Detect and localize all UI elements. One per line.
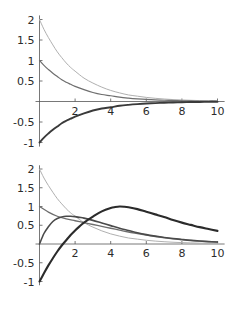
curves-top	[40, 20, 218, 143]
y-tick-label-1: 1	[28, 55, 35, 68]
x-tick-label-10: 10	[211, 105, 225, 118]
y-tick-label-1: 1	[28, 201, 35, 214]
x-tick-label-4: 4	[107, 247, 114, 260]
x-tick-label-6: 6	[143, 105, 150, 118]
y-tick-label-2: 2	[28, 14, 35, 27]
y-tick-label--1: -1	[24, 137, 35, 150]
y-tick-label-2: 2	[28, 163, 35, 176]
y-tick-labels-bottom: -1-0.50.511.52	[13, 163, 34, 289]
y-tick-label-0.5: 0.5	[17, 219, 35, 232]
x-tick-labels-bottom: 246810	[72, 247, 225, 260]
y-tick-label-0.5: 0.5	[17, 75, 35, 88]
x-tick-label-8: 8	[178, 105, 185, 118]
y-ticks-bottom	[40, 169, 43, 282]
plot-panel-bottom: 246810 -1-0.50.511.52	[0, 155, 240, 310]
y-tick-label--1: -1	[24, 276, 35, 289]
x-tick-label-2: 2	[72, 247, 79, 260]
curve-upper-light-decay	[40, 20, 218, 101]
plot-panel-top: 246810 -1-0.50.511.52	[0, 0, 240, 155]
x-tick-label-4: 4	[107, 105, 114, 118]
x-tick-label-2: 2	[72, 105, 79, 118]
y-tick-label--0.5: -0.5	[13, 116, 34, 129]
x-tick-label-8: 8	[178, 247, 185, 260]
plot-svg-top: 246810 -1-0.50.511.52	[0, 0, 240, 155]
plot-svg-bottom: 246810 -1-0.50.511.52	[0, 155, 240, 310]
y-tick-label--0.5: -0.5	[13, 257, 34, 270]
y-tick-labels-top: -1-0.50.511.52	[13, 14, 34, 150]
x-tick-label-6: 6	[143, 247, 150, 260]
y-tick-label-1.5: 1.5	[17, 182, 35, 195]
curves-bottom	[40, 169, 218, 282]
curve-lower-negative-decay	[40, 102, 218, 143]
x-tick-label-10: 10	[211, 247, 225, 260]
y-tick-label-1.5: 1.5	[17, 34, 35, 47]
y-ticks-top	[40, 20, 43, 143]
plot-page: 246810 -1-0.50.511.52 246810 -1-0.50.511…	[0, 0, 240, 310]
